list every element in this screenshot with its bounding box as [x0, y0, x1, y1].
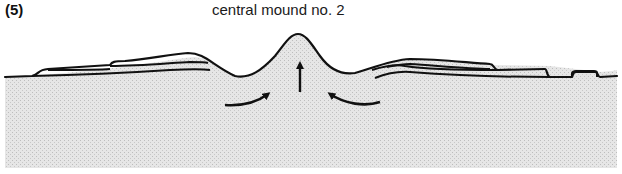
left-layer-3 [48, 69, 110, 70]
ground-body [5, 34, 617, 168]
mound-cross-section [0, 0, 622, 174]
